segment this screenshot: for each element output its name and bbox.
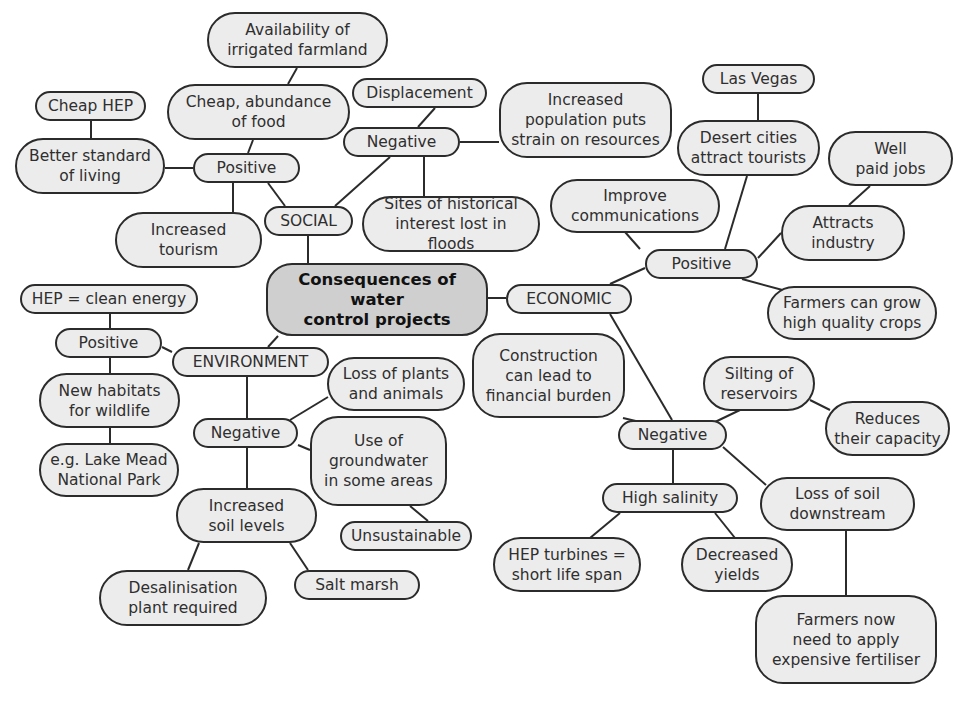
better-standard-node: Better standard of living [15,138,165,194]
salt-marsh-node: Salt marsh [294,570,420,600]
historical-sites-node: Sites of historical interest lost in flo… [362,196,540,252]
increased-tourism-node: Increased tourism [115,212,262,268]
decreased-yields-node: Decreased yields [681,537,793,592]
silting-reservoirs-node: Silting of reservoirs [703,356,815,411]
hep-clean-energy-node: HEP = clean energy [20,284,198,314]
economic-negative-node: Negative [618,420,727,450]
economic-positive-node: Positive [645,249,758,279]
reduces-capacity-node: Reduces their capacity [825,401,950,456]
environment-positive-node: Positive [55,328,162,358]
hep-turbines-node: HEP turbines = short life span [493,537,641,592]
social-negative-node: Negative [343,127,460,157]
unsustainable-node: Unsustainable [340,521,472,551]
high-salinity-node: High salinity [602,483,738,513]
economic-branch-node: ECONOMIC [506,284,632,314]
groundwater-node: Use of groundwater in some areas [310,416,447,506]
increased-soil-node: Increased soil levels [176,488,317,543]
social-positive-node: Positive [193,153,300,183]
environment-negative-node: Negative [193,418,298,448]
cheap-food-node: Cheap, abundance of food [167,84,350,140]
new-habitats-node: New habitats for wildlife [39,373,180,428]
attracts-industry-node: Attracts industry [781,205,905,261]
las-vegas-node: Las Vegas [702,64,815,94]
farmers-fertiliser-node: Farmers now need to apply expensive fert… [755,595,937,684]
farmers-quality-crops-node: Farmers can grow high quality crops [767,286,937,340]
well-paid-jobs-node: Well paid jobs [828,131,953,186]
displacement-node: Displacement [352,78,487,108]
loss-of-soil-node: Loss of soil downstream [760,477,915,531]
central-topic-node: Consequences of water control projects [266,263,488,336]
population-strain-node: Increased population puts strain on reso… [499,82,672,158]
loss-plants-animals-node: Loss of plants and animals [327,357,465,411]
availability-farmland-node: Availability of irrigated farmland [207,12,388,68]
improve-communications-node: Improve communications [550,179,720,233]
social-branch-node: SOCIAL [264,206,353,236]
construction-burden-node: Construction can lead to financial burde… [472,333,625,418]
lake-mead-node: e.g. Lake Mead National Park [39,443,179,497]
cheap-hep-node: Cheap HEP [35,91,146,121]
desalinisation-node: Desalinisation plant required [99,570,267,626]
environment-branch-node: ENVIRONMENT [172,347,329,377]
desert-cities-node: Desert cities attract tourists [677,120,820,176]
